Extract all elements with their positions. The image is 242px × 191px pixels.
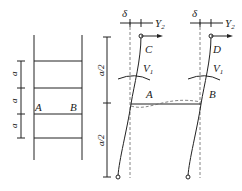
dim-a-3: a (9, 123, 19, 128)
node-A-right: A (145, 88, 153, 100)
node-A-left: A (34, 101, 42, 113)
frame-diagram: a a a A B a/2 a/2 (0, 0, 242, 191)
right-frame: a/2 a/2 δ δ Y2 Y2 V1 V1 (96, 7, 235, 179)
Y2-right: Y2 (225, 17, 235, 31)
dim-a-2: a (9, 98, 19, 103)
node-B-right: B (209, 88, 216, 100)
V1-right: V1 (213, 62, 223, 76)
left-frame: a a a A B (9, 35, 82, 160)
delta-right: δ (192, 7, 198, 19)
dim-a-half-top: a/2 (96, 64, 106, 76)
Y2-left: Y2 (155, 17, 165, 31)
dim-a-1: a (9, 71, 19, 76)
node-B-left: B (70, 101, 77, 113)
node-C: C (145, 43, 153, 55)
dim-a-half-bottom: a/2 (96, 134, 106, 146)
delta-left: δ (122, 7, 128, 19)
node-D: D (212, 43, 221, 55)
V1-left: V1 (143, 62, 153, 76)
